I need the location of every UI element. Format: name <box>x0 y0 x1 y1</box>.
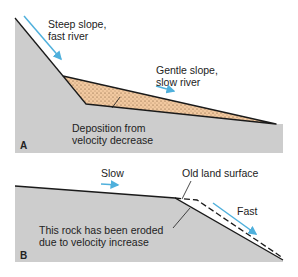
fast-label: Fast <box>237 205 257 217</box>
slow-label: Slow <box>101 167 124 179</box>
steep-slope-label: Steep slope, <box>48 18 106 30</box>
slow-arrow <box>101 184 118 185</box>
eroded-label: This rock has been eroded <box>39 224 163 236</box>
old-land-surface-label: Old land surface <box>182 167 258 179</box>
panel-b-letter: B <box>20 250 27 261</box>
gentle-slope-label: Gentle slope, <box>156 64 218 76</box>
panel-a-letter: A <box>20 140 27 151</box>
fast-river-label: fast river <box>48 30 88 42</box>
velocity-decrease-label: velocity decrease <box>72 134 153 146</box>
panel-b <box>15 181 283 262</box>
deposition-label: Deposition from <box>72 122 146 134</box>
velocity-increase-label: due to velocity increase <box>39 236 149 248</box>
old-surface-leader <box>182 181 191 199</box>
slow-river-label: slow river <box>156 76 200 88</box>
